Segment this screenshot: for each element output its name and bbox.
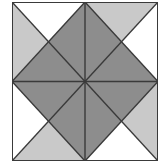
image-canvas [0, 0, 168, 168]
quilt-block [12, 2, 158, 161]
line-layer [12, 2, 158, 161]
quilt-block-svg [12, 2, 158, 161]
